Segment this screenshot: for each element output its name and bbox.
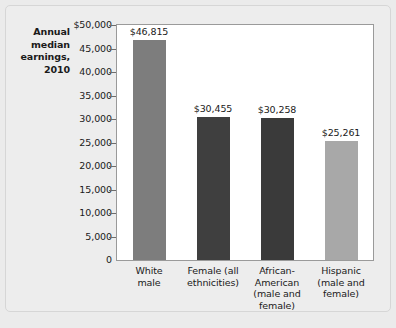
x-axis-category-label-line: male	[117, 277, 181, 289]
y-axis-tick-mark	[109, 213, 116, 214]
x-axis-category-label: Female (allethnicities)	[181, 265, 245, 288]
bar-group[interactable]: $25,261	[325, 25, 358, 260]
y-axis-title-line: Annual	[10, 26, 70, 39]
y-axis-title: Annualmedianearnings,2010	[10, 26, 70, 76]
x-axis-category-labels: WhitemaleFemale (allethnicities)African-…	[117, 265, 373, 315]
bar-value-label: $30,455	[194, 103, 233, 114]
y-axis-tick-mark	[109, 72, 116, 73]
y-axis-tick-label: 15,000	[64, 185, 112, 195]
y-axis-tick-label: 0	[64, 255, 112, 265]
y-axis-tick-label: 30,000	[64, 114, 112, 124]
x-axis-category-label: African-American(male andfemale)	[245, 265, 309, 311]
y-axis-tick-mark	[109, 237, 116, 238]
y-axis-tick-label: 35,000	[64, 91, 112, 101]
y-axis-tick-mark	[109, 166, 116, 167]
bar-series: $46,815$30,455$30,258$25,261	[117, 25, 373, 260]
figure-card: Annualmedianearnings,2010 $50,00045,0004…	[5, 5, 391, 312]
bar[interactable]	[197, 117, 230, 260]
y-axis-tick-label: 10,000	[64, 208, 112, 218]
x-axis-category-label-line: African-	[245, 265, 309, 277]
y-axis-tick-mark	[109, 119, 116, 120]
x-axis-category-label-line: White	[117, 265, 181, 277]
bar[interactable]	[261, 118, 294, 260]
y-axis-tick-mark	[109, 190, 116, 191]
bar-group[interactable]: $30,455	[197, 25, 230, 260]
y-axis-tick-label: 40,000	[64, 67, 112, 77]
y-axis-tick-mark	[109, 25, 116, 26]
bar[interactable]	[133, 40, 166, 260]
bar-value-label: $25,261	[322, 127, 361, 138]
y-axis-tick-label: 25,000	[64, 138, 112, 148]
y-axis-title-line: earnings,	[10, 51, 70, 64]
x-axis-category-label-line: female)	[309, 288, 373, 300]
y-axis-tick-label: $50,000	[64, 20, 112, 30]
y-axis-tick-mark	[109, 49, 116, 50]
bar-value-label: $30,258	[258, 104, 297, 115]
x-axis-category-label-line: Hispanic	[309, 265, 373, 277]
y-axis-title-line: median	[10, 39, 70, 52]
y-axis-tick-mark	[109, 96, 116, 97]
y-axis-tick-label: 45,000	[64, 44, 112, 54]
bar-group[interactable]: $46,815	[133, 25, 166, 260]
x-axis-category-label: Whitemale	[117, 265, 181, 288]
x-axis-category-label-line: American	[245, 277, 309, 289]
bar[interactable]	[325, 141, 358, 260]
y-axis-tick-mark	[109, 143, 116, 144]
y-axis-title-line: 2010	[10, 64, 70, 77]
bar-value-label: $46,815	[130, 26, 169, 37]
y-axis-tick-labels: $50,00045,00040,00035,00030,00025,00020,…	[64, 24, 112, 264]
x-axis-category-label-line: ethnicities)	[181, 277, 245, 289]
y-axis-tick-label: 20,000	[64, 161, 112, 171]
x-axis-category-label-line: (male and	[309, 277, 373, 289]
y-axis-tick-label: 5,000	[64, 232, 112, 242]
x-axis-category-label-line: female)	[245, 300, 309, 312]
bar-group[interactable]: $30,258	[261, 25, 294, 260]
x-axis-category-label-line: Female (all	[181, 265, 245, 277]
x-axis-category-label: Hispanic(male andfemale)	[309, 265, 373, 300]
x-axis-category-label-line: (male and	[245, 288, 309, 300]
